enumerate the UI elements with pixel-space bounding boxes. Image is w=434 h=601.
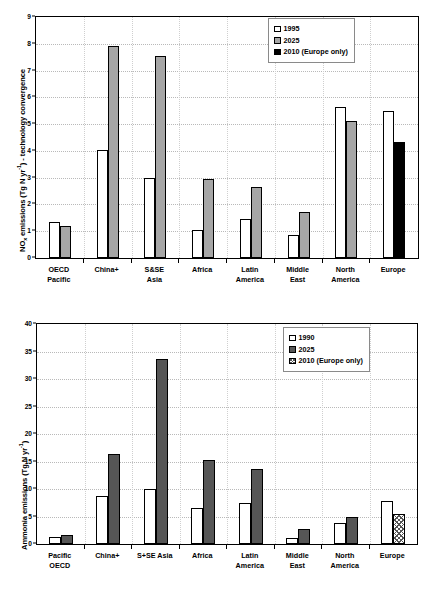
y-axis-tick-mark: [32, 203, 35, 204]
bar-1990[interactable]: [96, 496, 108, 544]
bar-2025[interactable]: [203, 460, 215, 544]
legend-item[interactable]: 2010 (Europe only): [289, 355, 363, 367]
bar-1995[interactable]: [288, 235, 299, 258]
y-axis-tick-label: 4: [27, 146, 31, 153]
bar-1995[interactable]: [335, 107, 346, 258]
bar-1990[interactable]: [191, 508, 203, 544]
x-axis-category-label: S+SE Asia: [137, 551, 173, 561]
y-axis-tick-label: 2: [27, 200, 31, 207]
bar-1990[interactable]: [239, 503, 251, 544]
bar-group: [84, 17, 132, 258]
y-axis-tick-label: 20: [25, 430, 32, 437]
bar-group-bars: [370, 17, 418, 258]
bar-1990[interactable]: [49, 537, 61, 544]
category-separator: [227, 324, 228, 544]
category-separator: [132, 324, 133, 544]
y-axis-tick-mark: [33, 323, 36, 324]
category-separator: [370, 17, 371, 258]
nox-plot-frame: [35, 16, 419, 259]
bar-2025[interactable]: [251, 187, 262, 258]
y-axis-tick-label: 1: [27, 227, 31, 234]
bar-group: [179, 17, 227, 258]
bar-1995[interactable]: [240, 219, 251, 258]
bar-2025[interactable]: [156, 359, 168, 544]
y-axis-tick-mark: [32, 149, 35, 150]
bar-group-bars: [132, 324, 180, 544]
legend-swatch-icon: [274, 37, 281, 44]
bar-2025[interactable]: [346, 517, 358, 544]
x-axis-category-label: China+: [95, 265, 119, 275]
bar-2025[interactable]: [60, 226, 71, 258]
bar-group-bars: [227, 324, 275, 544]
y-axis-tick-label: 0: [28, 540, 32, 547]
legend-item[interactable]: 2010 (Europe only): [274, 46, 348, 58]
bar-1995[interactable]: [144, 178, 155, 258]
y-axis-tick-label: 25: [25, 402, 32, 409]
y-axis-tick-mark: [33, 460, 36, 461]
x-axis-tick-mark: [369, 259, 370, 263]
bar-group-bars: [132, 17, 180, 258]
category-separator: [179, 17, 180, 258]
legend-item[interactable]: 1990: [289, 332, 363, 344]
y-axis-tick-mark: [33, 378, 36, 379]
legend-item[interactable]: 2025: [274, 35, 348, 47]
bar-2025[interactable]: [346, 121, 357, 258]
ammonia-legend: 199020252010 (Europe only): [283, 327, 370, 372]
y-axis-tick-label: 35: [25, 347, 32, 354]
x-axis-category-label: North America: [331, 265, 359, 284]
x-axis-category-label: Pacific OECD: [48, 551, 71, 570]
x-axis-category-label: Europe: [380, 551, 405, 561]
x-axis-category-label: Europe: [381, 265, 406, 275]
x-axis-category-label: S&SE Asia: [145, 265, 165, 284]
legend-swatch-icon: [289, 358, 296, 365]
legend-label: 1990: [299, 333, 315, 342]
y-axis-tick-mark: [32, 96, 35, 97]
bar-group: [370, 17, 418, 258]
legend-item[interactable]: 1995: [274, 23, 348, 35]
y-axis-tick-mark: [32, 257, 35, 258]
y-axis-tick-mark: [32, 230, 35, 231]
bar-group: [180, 324, 228, 544]
bar-2025[interactable]: [203, 179, 214, 258]
x-axis-category-label: Africa: [192, 551, 212, 561]
bar-1995[interactable]: [383, 111, 394, 258]
bar-1990[interactable]: [144, 489, 156, 544]
bar-2025[interactable]: [108, 454, 120, 544]
bar-group: [227, 324, 275, 544]
bar-1995[interactable]: [192, 230, 203, 258]
y-axis-tick-label: 6: [27, 93, 31, 100]
nox-y-axis-label: NOx emissions (Tg N yr-1) - technology c…: [16, 69, 28, 252]
bar-2025[interactable]: [108, 46, 119, 258]
legend-item[interactable]: 2025: [289, 344, 363, 356]
x-axis-tick-mark: [274, 545, 275, 549]
y-axis-tick-mark: [32, 176, 35, 177]
y-axis-tick-label: 40: [25, 320, 32, 327]
bar-2025[interactable]: [155, 56, 166, 258]
category-separator: [132, 17, 133, 258]
bar-1990[interactable]: [381, 501, 393, 544]
bar-group: [36, 17, 84, 258]
bar-1990[interactable]: [334, 523, 346, 544]
x-axis-category-label: Latin America: [236, 265, 264, 284]
x-axis-tick-mark: [83, 259, 84, 263]
y-axis-tick-mark: [33, 433, 36, 434]
bar-group: [132, 324, 180, 544]
bar-2025[interactable]: [251, 469, 263, 544]
bar-2010-europe-only[interactable]: [394, 142, 405, 258]
bar-1995[interactable]: [49, 222, 60, 258]
bar-2025[interactable]: [61, 535, 73, 544]
bar-2010-europe-only[interactable]: [393, 514, 405, 544]
y-axis-tick-label: 7: [27, 66, 31, 73]
bar-2025[interactable]: [298, 529, 310, 544]
y-axis-tick-mark: [33, 515, 36, 516]
x-axis-tick-mark: [274, 259, 275, 263]
bar-1995[interactable]: [97, 150, 108, 258]
bar-2025[interactable]: [299, 212, 310, 258]
legend-label: 2010 (Europe only): [284, 47, 348, 56]
bar-1990[interactable]: [286, 538, 298, 544]
x-axis-category-label: Africa: [192, 265, 212, 275]
legend-swatch-icon: [289, 335, 296, 342]
y-axis-tick-label: 10: [25, 485, 32, 492]
bar-group-bars: [85, 324, 133, 544]
x-axis-category-label: China+: [95, 551, 119, 561]
